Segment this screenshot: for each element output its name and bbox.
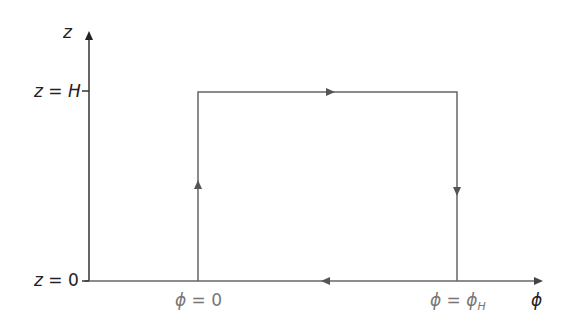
arrow-left-icon <box>321 277 330 285</box>
z-axis-arrow-icon <box>85 31 93 40</box>
arrow-up-icon <box>194 180 202 189</box>
z-axis-label: z <box>63 24 72 41</box>
tick-label-phi-H: ϕ = ϕH <box>430 292 486 312</box>
tick-label-z-0: z = 0 <box>34 272 79 289</box>
contour-diagram <box>0 0 569 322</box>
contour-path <box>198 92 457 281</box>
phi-axis-label: ϕ <box>531 292 542 309</box>
arrow-right-icon <box>326 88 335 96</box>
phi-axis-arrow-icon <box>534 277 543 285</box>
tick-label-phi-0: ϕ = 0 <box>175 292 222 309</box>
arrow-down-icon <box>453 187 461 196</box>
tick-label-z-H: z = H <box>34 83 81 100</box>
